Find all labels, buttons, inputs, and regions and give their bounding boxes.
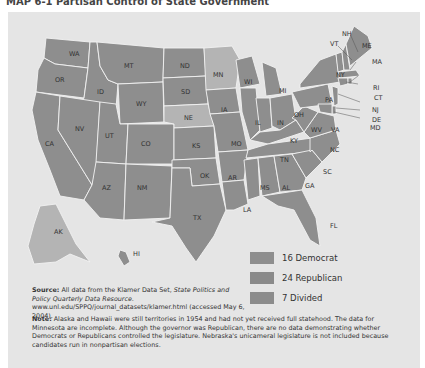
svg-text:SD: SD <box>181 88 190 96</box>
svg-text:MN: MN <box>213 71 224 79</box>
swatch-divided <box>250 292 274 304</box>
legend-label-republican: 24 Republican <box>282 273 342 283</box>
svg-text:AZ: AZ <box>102 184 111 192</box>
svg-text:NM: NM <box>137 184 147 192</box>
state-nm <box>124 164 172 220</box>
svg-text:PA: PA <box>325 96 334 104</box>
footnote: Note: Alaska and Hawaii were still terri… <box>32 315 402 349</box>
state-hi <box>118 250 130 266</box>
legend: 16 Democrat 24 Republican 7 Divided <box>250 248 342 308</box>
svg-text:MI: MI <box>279 87 287 95</box>
legend-label-democrat: 16 Democrat <box>282 253 337 263</box>
legend-label-divided: 7 Divided <box>282 293 322 303</box>
svg-text:IN: IN <box>277 119 284 127</box>
svg-text:CO: CO <box>141 140 151 148</box>
svg-text:SC: SC <box>323 168 332 176</box>
svg-text:MA: MA <box>372 58 383 66</box>
svg-text:FL: FL <box>330 222 338 230</box>
svg-text:OH: OH <box>294 111 304 119</box>
swatch-republican <box>250 272 274 284</box>
svg-text:MO: MO <box>231 140 242 148</box>
svg-text:LA: LA <box>243 206 252 214</box>
svg-text:AR: AR <box>228 174 237 182</box>
svg-text:OR: OR <box>55 76 65 84</box>
state-de <box>332 106 336 114</box>
svg-text:NV: NV <box>75 125 85 133</box>
svg-text:UT: UT <box>105 132 114 140</box>
svg-text:KY: KY <box>290 137 298 145</box>
svg-text:RI: RI <box>373 84 380 92</box>
svg-text:WA: WA <box>69 50 80 58</box>
svg-text:WI: WI <box>244 78 252 86</box>
svg-text:NE: NE <box>184 114 193 122</box>
map-panel: WA OR CA ID NV MT WY UT CO AZ NM ND SD N… <box>8 12 420 368</box>
svg-text:WY: WY <box>136 100 146 108</box>
state-mn <box>204 46 240 90</box>
map-title: MAP 6-1 Partisan Control of State Govern… <box>6 0 269 7</box>
svg-text:VT: VT <box>330 40 338 48</box>
svg-text:MD: MD <box>370 124 381 132</box>
svg-text:MT: MT <box>124 62 134 70</box>
svg-text:OK: OK <box>200 172 210 180</box>
svg-text:WV: WV <box>311 126 322 134</box>
svg-text:MS: MS <box>260 184 270 192</box>
svg-text:ID: ID <box>97 88 104 96</box>
state-fl <box>262 190 320 246</box>
svg-text:CT: CT <box>374 94 383 102</box>
legend-item-republican: 24 Republican <box>250 268 342 288</box>
svg-text:IA: IA <box>221 106 228 114</box>
svg-text:NY: NY <box>336 71 345 79</box>
svg-text:NH: NH <box>342 30 352 38</box>
svg-text:IL: IL <box>255 119 261 127</box>
svg-text:ME: ME <box>362 42 372 50</box>
svg-text:HI: HI <box>133 250 140 258</box>
svg-text:KS: KS <box>192 142 200 150</box>
swatch-democrat <box>250 252 274 264</box>
svg-text:AK: AK <box>54 228 63 236</box>
svg-text:GA: GA <box>305 182 315 190</box>
svg-text:VA: VA <box>331 126 340 134</box>
svg-text:TN: TN <box>279 156 289 164</box>
state-ny <box>300 54 340 88</box>
svg-text:TX: TX <box>192 214 202 222</box>
svg-text:DE: DE <box>372 116 381 124</box>
svg-text:CA: CA <box>45 140 55 148</box>
legend-item-democrat: 16 Democrat <box>250 248 342 268</box>
svg-text:NC: NC <box>330 146 340 154</box>
svg-text:AL: AL <box>282 184 290 192</box>
svg-text:NJ: NJ <box>372 106 379 114</box>
legend-item-divided: 7 Divided <box>250 288 342 308</box>
svg-text:ND: ND <box>180 62 190 70</box>
